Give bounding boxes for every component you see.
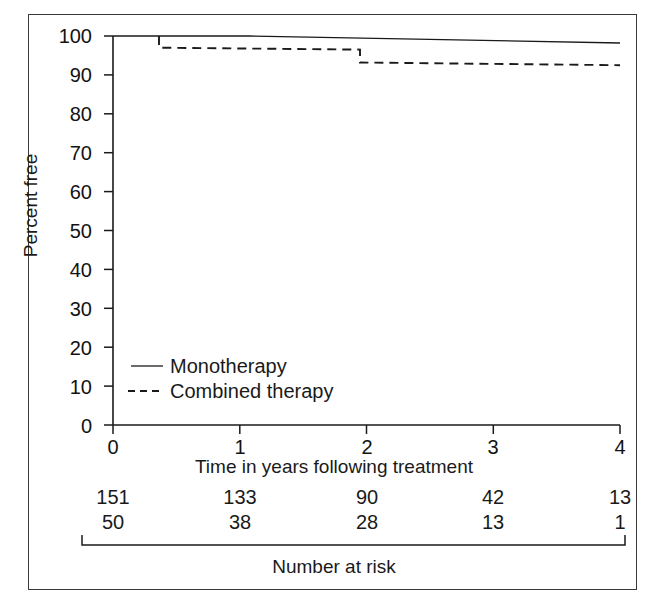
risk-table-caption: Number at risk — [0, 556, 668, 578]
y-tick-label-80: 80 — [40, 104, 92, 124]
x-axis-ticks — [113, 425, 620, 434]
risk-cell: 13 — [458, 512, 528, 532]
risk-cell: 42 — [458, 487, 528, 507]
y-tick-label-90: 90 — [40, 65, 92, 85]
risk-table: 151 133 90 42 13 50 38 28 13 1 — [0, 487, 668, 539]
risk-row-monotherapy: 151 133 90 42 13 — [0, 487, 668, 512]
risk-cell: 151 — [78, 487, 148, 507]
series-monotherapy-line — [113, 36, 620, 43]
figure-container: 100 90 80 70 60 50 40 30 20 10 0 Percent… — [0, 0, 668, 613]
y-tick-label-20: 20 — [40, 338, 92, 358]
risk-row-combined-therapy: 50 38 28 13 1 — [0, 512, 668, 537]
x-tick-label-0: 0 — [93, 437, 133, 457]
x-tick-label-2: 2 — [347, 437, 387, 457]
legend-label-monotherapy: Monotherapy — [170, 356, 287, 376]
y-tick-label-60: 60 — [40, 182, 92, 202]
risk-cell: 13 — [585, 487, 655, 507]
x-axis-title: Time in years following treatment — [0, 456, 668, 478]
y-tick-label-30: 30 — [40, 299, 92, 319]
y-axis-title: Percent free — [21, 146, 40, 266]
x-tick-label-1: 1 — [220, 437, 260, 457]
y-tick-label-10: 10 — [40, 377, 92, 397]
series-combined-therapy-line — [159, 36, 620, 65]
risk-cell: 50 — [78, 512, 148, 532]
x-tick-label-4: 4 — [600, 437, 640, 457]
y-tick-label-0: 0 — [40, 416, 92, 436]
risk-cell: 1 — [585, 512, 655, 532]
y-tick-label-100: 100 — [40, 26, 92, 46]
risk-cell: 28 — [332, 512, 402, 532]
legend-label-combined-therapy: Combined therapy — [170, 381, 333, 401]
y-axis-ticks — [104, 36, 113, 425]
x-tick-label-3: 3 — [473, 437, 513, 457]
risk-cell: 133 — [205, 487, 275, 507]
y-tick-label-70: 70 — [40, 143, 92, 163]
y-tick-label-40: 40 — [40, 260, 92, 280]
risk-cell: 38 — [205, 512, 275, 532]
risk-cell: 90 — [332, 487, 402, 507]
y-tick-label-50: 50 — [40, 221, 92, 241]
